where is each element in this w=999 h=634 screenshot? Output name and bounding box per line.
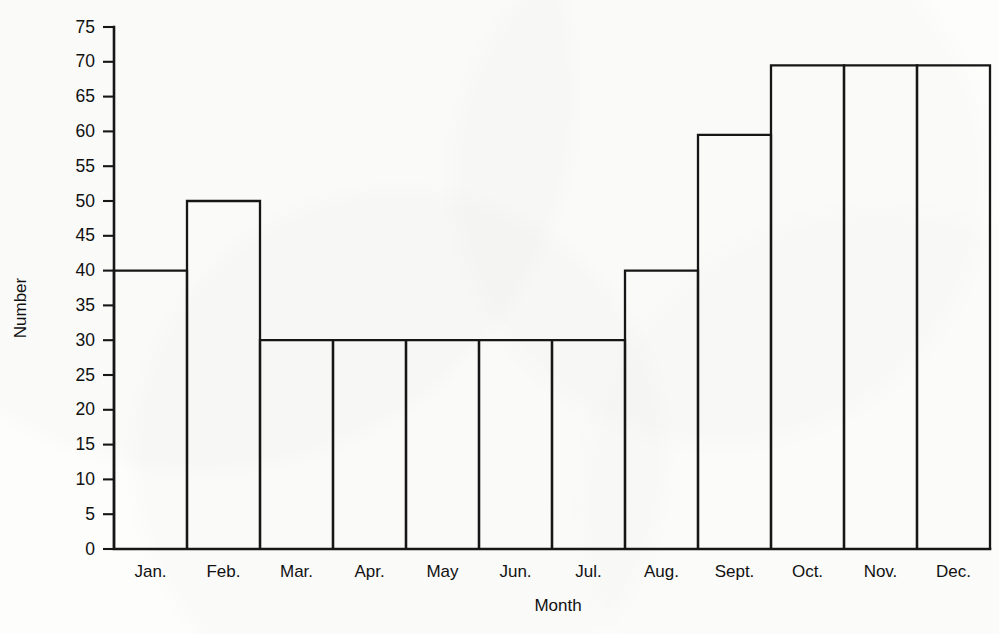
y-axis-tick-label: 75 [76,17,95,37]
y-axis-title: Number [11,277,30,338]
x-axis-tick-label: Jan. [134,562,166,581]
chart-page: 051015202530354045505560657075 Jan.Feb.M… [0,0,999,634]
x-axis-title: Month [534,596,581,615]
bar-nov [844,65,917,549]
x-axis-tick-label: Jun. [499,562,531,581]
y-axis-tick-label: 25 [76,365,95,385]
bar-jan [114,271,187,549]
bar-feb [187,201,260,549]
y-axis-tick-label: 0 [85,539,95,559]
x-axis-tick-label: Aug. [644,562,679,581]
bar-chart: 051015202530354045505560657075 Jan.Feb.M… [0,0,999,634]
y-axis-tick-label: 35 [76,295,95,315]
bar-may [406,340,479,549]
x-axis-tick-label: Feb. [206,562,240,581]
y-axis-tick-label: 65 [76,86,95,106]
bar-aug [625,271,698,549]
x-axis-tick-label: Apr. [354,562,384,581]
x-axis-tick-label: Oct. [792,562,823,581]
bar-oct [771,65,844,549]
bar-mar [260,340,333,549]
x-axis-label-group: Jan.Feb.Mar.Apr.MayJun.Jul.Aug.Sept.Oct.… [134,562,971,581]
bar-jun [479,340,552,549]
y-axis-tick-label: 60 [76,121,96,141]
x-axis-tick-label: Jul. [575,562,601,581]
y-axis-tick-label: 55 [76,156,95,176]
y-axis-tick-label: 20 [76,399,96,419]
y-axis-tick-label: 15 [76,434,95,454]
y-axis-tick-label: 50 [76,191,96,211]
x-axis-tick-label: May [426,562,459,581]
x-axis-tick-label: Dec. [936,562,971,581]
y-axis-tick-label: 45 [76,225,95,245]
y-axis-tick-label: 10 [76,469,96,489]
y-axis-tick-label: 70 [76,51,96,71]
bar-jul [552,340,625,549]
y-axis-tick-label: 30 [76,330,96,350]
y-axis-tick-group: 051015202530354045505560657075 [76,17,114,559]
x-axis-tick-label: Mar. [280,562,313,581]
y-axis-tick-label: 40 [76,260,96,280]
y-axis-tick-label: 5 [85,504,95,524]
bar-apr [333,340,406,549]
bar-sept [698,135,771,549]
x-axis-tick-label: Sept. [715,562,755,581]
bar-dec [917,65,990,549]
bar-group [114,65,990,549]
x-axis-tick-label: Nov. [864,562,898,581]
